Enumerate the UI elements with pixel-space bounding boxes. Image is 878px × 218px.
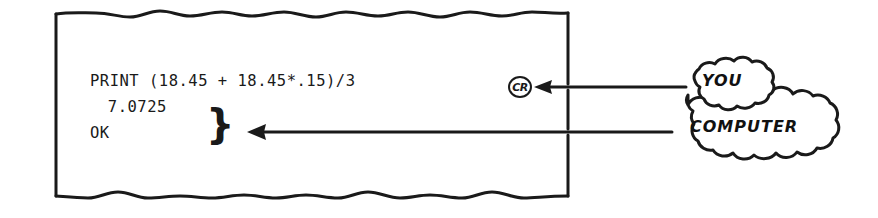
cr-key-label: CR — [512, 82, 528, 93]
printout-ok-line: OK — [90, 124, 110, 142]
printout-result-line: 7.0725 — [98, 98, 167, 116]
paper-bottom-torn-edge — [56, 192, 568, 198]
paper-top-torn-edge — [56, 11, 568, 17]
you-arrow — [534, 80, 686, 94]
you-callout-label: YOU — [702, 71, 743, 90]
printout-input-line: PRINT (18.45 + 18.45*.15)/3 — [90, 72, 355, 90]
you-arrow-head — [534, 80, 552, 94]
figure-canvas: PRINT (18.45 + 18.45*.15)/3 7.0725 OK CR… — [0, 0, 878, 218]
computer-arrow — [247, 124, 672, 140]
output-group-brace: } — [206, 104, 234, 144]
cr-key-icon: CR — [508, 76, 532, 98]
computer-callout-label: COMPUTER — [690, 117, 798, 136]
computer-arrow-head — [247, 124, 266, 140]
